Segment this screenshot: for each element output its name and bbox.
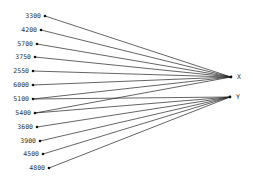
source-node: [32, 70, 35, 73]
source-label: 3750: [15, 53, 31, 61]
source-label: 4200: [21, 26, 37, 34]
target-label-y: Y: [236, 93, 240, 101]
edge-6000-X: [33, 77, 231, 85]
source-label: 4800: [29, 164, 45, 172]
edge-5400-X: [35, 77, 231, 113]
edge-4500-Y: [43, 97, 230, 154]
source-node: [34, 112, 37, 115]
source-node: [40, 29, 43, 32]
source-node: [34, 56, 37, 59]
source-label: 5400: [15, 109, 31, 117]
edge-5100-Y: [33, 97, 230, 99]
source-label: 3900: [20, 137, 36, 145]
source-node: [36, 126, 39, 129]
source-node: [39, 140, 42, 143]
source-node: [42, 153, 45, 156]
source-node: [32, 84, 35, 87]
edge-5400-Y: [35, 97, 230, 113]
source-label: 3300: [25, 12, 41, 20]
source-label: 5100: [13, 95, 29, 103]
source-node: [48, 167, 51, 170]
edge-3600-Y: [37, 97, 230, 127]
target-label-x: X: [237, 73, 241, 81]
source-node: [36, 43, 39, 46]
target-node-y: [229, 96, 232, 99]
source-label: 4500: [23, 150, 39, 158]
source-node: [44, 15, 47, 18]
target-node-x: [230, 76, 233, 79]
source-label: 6000: [13, 81, 29, 89]
source-label: 2550: [13, 67, 29, 75]
source-node: [32, 98, 35, 101]
source-label: 5700: [17, 40, 33, 48]
edge-5100-X: [33, 77, 231, 99]
source-label: 3600: [17, 123, 33, 131]
edge-4200-X: [41, 30, 231, 77]
diagram-canvas: 3300420057003750255060005100540036003900…: [0, 0, 253, 181]
